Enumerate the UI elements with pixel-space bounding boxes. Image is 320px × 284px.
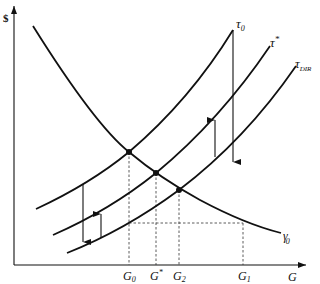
label-taudir: τDIR — [295, 56, 312, 73]
x-tick-labels: G0 G* G2 G1 — [123, 268, 251, 284]
curve-labels: τ0 τ* τDIR γ0 — [236, 16, 312, 246]
point-gstar — [153, 170, 159, 176]
point-g2 — [176, 187, 182, 193]
tick-g2: G2 — [173, 269, 186, 284]
curve-taustar — [53, 46, 270, 235]
x-axis-label: G — [288, 270, 297, 284]
point-g0 — [126, 149, 132, 155]
curve-tau0 — [36, 30, 233, 209]
label-gamma0: γ0 — [283, 229, 290, 246]
tick-g1: G1 — [238, 269, 251, 284]
tick-g0: G0 — [123, 269, 136, 284]
curve-gamma0 — [33, 26, 281, 233]
tick-gstar: G* — [150, 268, 163, 283]
diagram: $ G τ0 τ* τDIR — [0, 0, 320, 284]
y-axis-label: $ — [3, 12, 9, 24]
axes: $ G — [3, 6, 306, 284]
shift-arrows — [83, 30, 233, 242]
label-taustar: τ* — [270, 34, 280, 50]
curves — [33, 26, 296, 253]
guide-lines — [129, 152, 243, 265]
label-tau0: τ0 — [236, 16, 245, 33]
